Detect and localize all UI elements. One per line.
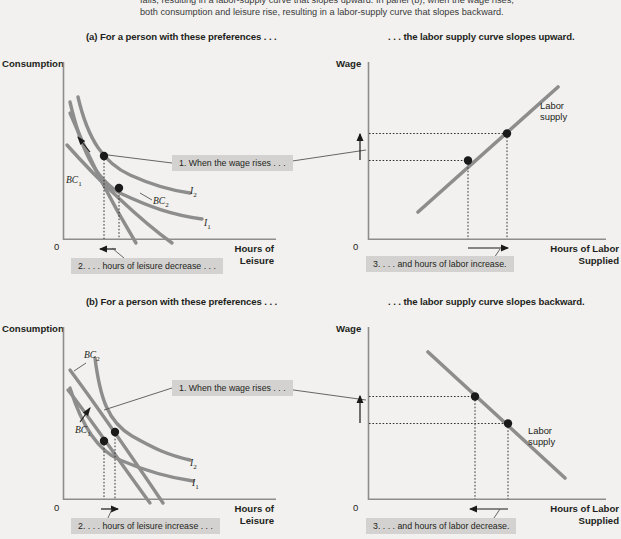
panel-b-bc2-label-leader	[74, 363, 86, 371]
panel-b-optimum-point-initial	[100, 437, 108, 445]
panel-b-bc1-curve	[68, 390, 150, 503]
figure-root: falls, resulting in a labor-supply curve…	[0, 0, 621, 539]
panel-b-supply-point-initial	[504, 419, 512, 427]
panel-b-bc1-label-sub: 1	[87, 430, 91, 438]
panel-b-labor-supply-curve	[428, 352, 565, 478]
panel-b-labor-supply-label-line2: supply	[528, 436, 555, 447]
panel-b-indifference-2-label: I2	[190, 458, 197, 471]
panel-b-callout-2: 2. . . . hours of leisure increase . . .	[71, 518, 220, 534]
panel-b-indifference-1-label: I1	[192, 478, 199, 491]
panel-b-labor-callout-leader	[494, 509, 500, 518]
panel-b-supply-point-new	[471, 392, 479, 400]
panel-b-callout1-leader	[104, 388, 172, 410]
panel-b-callout-3: 3. . . . and hours of labor decrease.	[366, 518, 516, 534]
panel-b-i2-label-sub: 2	[193, 463, 197, 471]
panel-b-graphics	[0, 0, 621, 539]
panel-b-bc1-label-text: BC	[75, 425, 87, 435]
panel-b-labor-supply-label-line1: Labor	[528, 425, 552, 436]
panel-b-callout-1: 1. When the wage rises . . .	[172, 380, 293, 396]
panel-b-labor-supply-label: Labor supply	[528, 425, 555, 447]
panel-b-bc2-label-sub: 2	[96, 355, 100, 363]
panel-b-optimum-point-new	[111, 428, 119, 436]
panel-b-right-axes	[369, 327, 607, 500]
panel-b-bc2-label-text: BC	[84, 350, 96, 360]
panel-b-bc1-label: BC1	[75, 425, 91, 438]
panel-b-bc2-label: BC2	[84, 350, 100, 363]
panel-b-i1-label-sub: 1	[195, 483, 199, 491]
panel-b-leisure-callout-leader	[108, 509, 112, 518]
